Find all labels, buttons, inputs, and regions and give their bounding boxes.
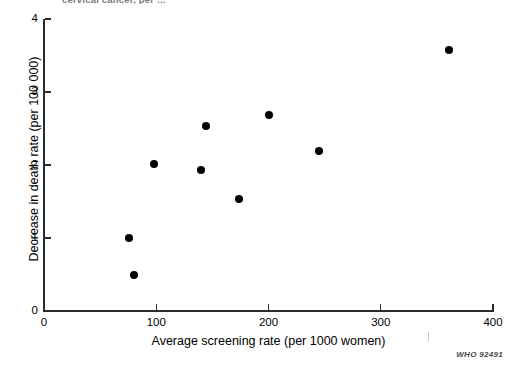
- y-axis-tick-label: 4: [14, 13, 38, 25]
- x-axis-tick-label-text: 300: [361, 316, 401, 329]
- x-axis-tick-label: 200: [249, 316, 289, 330]
- x-axis-tick-label: 100: [136, 316, 176, 330]
- x-axis-tick-label: 400: [473, 316, 513, 330]
- data-point: [202, 122, 210, 130]
- source-code-label: WHO 92491: [456, 350, 503, 359]
- data-point: [130, 271, 138, 279]
- x-axis-tick-label: 0: [24, 316, 64, 330]
- x-axis-title: Average screening rate (per 1000 women): [44, 334, 493, 348]
- data-point: [197, 166, 205, 174]
- data-point: [150, 160, 158, 168]
- stray-mark: [428, 332, 429, 341]
- x-axis-tick-label-text: 200: [249, 316, 289, 329]
- data-point: [265, 111, 273, 119]
- chart-title: cervical cancer, per ...: [62, 0, 392, 4]
- data-point: [125, 234, 133, 242]
- x-axis-tick-label-text: 400: [473, 316, 513, 329]
- x-axis-tick-label-text: 100: [136, 316, 176, 329]
- data-point: [445, 46, 453, 54]
- data-point: [235, 195, 243, 203]
- x-axis-tick-label-text: 0: [24, 316, 64, 329]
- data-point: [315, 147, 323, 155]
- x-axis-tick-label: 300: [361, 316, 401, 330]
- scatter-plot-figure: cervical cancer, per ... 01234 010020030…: [0, 0, 513, 366]
- y-axis-tick-label-text: 4: [14, 13, 38, 25]
- y-axis-tick-label-text: 0: [14, 305, 38, 317]
- y-axis-title: Decrease in death rate (per 100 000): [27, 39, 41, 279]
- plot-area: [44, 19, 493, 311]
